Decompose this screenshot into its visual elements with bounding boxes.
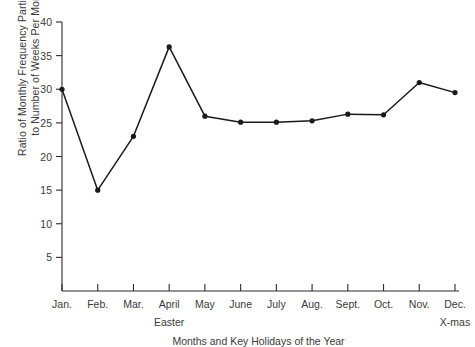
data-point (202, 114, 207, 119)
data-series-line (62, 47, 455, 190)
data-point (381, 112, 386, 117)
data-point (452, 90, 457, 95)
data-point (167, 44, 172, 49)
data-point (95, 188, 100, 193)
data-point (238, 120, 243, 125)
data-point (59, 87, 64, 92)
axes (56, 22, 459, 291)
data-point (417, 80, 422, 85)
x-axis-ticks (62, 284, 455, 291)
data-point-markers (59, 44, 457, 192)
data-point (345, 112, 350, 117)
data-point (309, 118, 314, 123)
data-point (274, 120, 279, 125)
y-axis-ticks (56, 22, 62, 257)
data-point (131, 134, 136, 139)
